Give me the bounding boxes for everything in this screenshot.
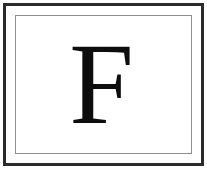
letter-panel: F xyxy=(16,16,191,153)
letter-card: F xyxy=(0,0,207,169)
letter-glyph: F xyxy=(69,26,134,142)
